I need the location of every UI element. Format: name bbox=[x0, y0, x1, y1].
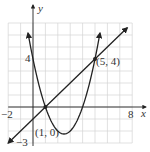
curves bbox=[8, 28, 127, 143]
y-tick-min: −3 bbox=[16, 137, 28, 148]
intersection-dot bbox=[43, 105, 47, 109]
y-axis-label: y bbox=[38, 3, 43, 14]
point-label-b: (5, 4) bbox=[96, 56, 120, 67]
y-tick-four: 4 bbox=[25, 53, 31, 64]
graph-canvas bbox=[0, 0, 150, 152]
x-tick-min: −2 bbox=[1, 109, 13, 120]
line-curve bbox=[8, 28, 127, 143]
point-label-a: (1, 0) bbox=[35, 127, 59, 138]
x-tick-max: 8 bbox=[128, 109, 134, 120]
x-axis-label: x bbox=[141, 108, 146, 119]
